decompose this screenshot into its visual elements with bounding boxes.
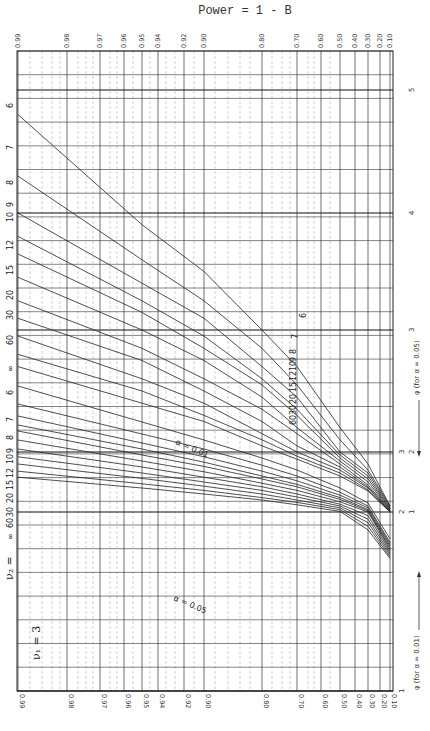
- nu2-label-alpha-005: 10: [6, 212, 15, 222]
- phi-005-tick: 3: [408, 328, 416, 332]
- bottom-tick-label: 0.20: [380, 694, 388, 708]
- nu2-label-alpha-001: 12: [6, 468, 15, 478]
- top-tick-label: 0.99: [14, 34, 22, 48]
- phi-005-arrow-head-icon: [417, 451, 421, 457]
- nu2-inline-label: 6: [299, 313, 308, 318]
- nu2-label-alpha-001: 9: [6, 448, 15, 453]
- nu2-inline-label: 30: [289, 405, 298, 415]
- phi-alpha-001-caption: φ (for α = 0.01): [413, 635, 421, 690]
- phi-005-tick: 2: [408, 450, 416, 454]
- nu2-label-alpha-005: 7: [6, 145, 15, 150]
- bottom-tick-label: 0.30: [368, 694, 376, 708]
- nu2-inline-label: 12: [289, 371, 298, 381]
- nu2-label-alpha-005: 8: [6, 180, 15, 185]
- top-tick-label: 0.94: [154, 34, 162, 48]
- top-tick-label: 0.50: [336, 34, 344, 48]
- phi-005-tick: 1: [408, 510, 416, 514]
- bottom-tick-label: 0.10: [390, 694, 398, 708]
- nu1-label: ν₁ = 3: [30, 626, 43, 660]
- nu2-label-alpha-001: ∞: [6, 533, 15, 540]
- bottom-tick-label: 0.90: [204, 694, 212, 708]
- nu2-inline-label: 60: [289, 415, 298, 425]
- nu2-label-alpha-001: 8: [6, 435, 15, 440]
- nu2-label-alpha-001: 60: [6, 518, 15, 528]
- top-tick-label: 0.92: [180, 34, 188, 48]
- alpha-001-label: α = 0.01: [174, 438, 210, 460]
- nu2-label-alpha-001: 30: [6, 507, 15, 517]
- phi-alpha-005-caption: φ (for α = 0.05): [413, 340, 421, 395]
- top-power-axis: 0.990.980.970.960.950.940.920.900.800.70…: [14, 34, 394, 48]
- bottom-tick-label: 0.96: [124, 694, 132, 708]
- top-tick-label: 0.20: [376, 34, 384, 48]
- top-tick-label: 0.10: [386, 34, 394, 48]
- nu2-inline-label: 8: [289, 349, 298, 354]
- top-tick-label: 0.60: [317, 34, 325, 48]
- top-tick-label: 0.70: [293, 34, 301, 48]
- bottom-tick-label: 0.50: [340, 694, 348, 708]
- phi-001-arrow-head-icon: [417, 571, 421, 577]
- nu2-label-alpha-001: 10: [6, 454, 15, 464]
- nu2-label-alpha-005: ∞: [6, 365, 15, 372]
- bottom-tick-label: 0.70: [297, 694, 305, 708]
- nu2-inline-label: 10: [289, 361, 298, 371]
- power-chart: 0.990.980.970.960.950.940.920.900.800.70…: [0, 0, 430, 731]
- bottom-tick-label: 0.92: [184, 694, 192, 708]
- alpha-005-label: α = 0.05: [172, 594, 208, 616]
- bottom-tick-label: 0.80: [262, 694, 270, 708]
- top-tick-label: 0.90: [200, 34, 208, 48]
- nu2-label-alpha-005: 6: [6, 103, 15, 108]
- top-tick-label: 0.97: [96, 34, 104, 48]
- bottom-tick-label: 0.97: [100, 694, 108, 708]
- top-tick-label: 0.95: [138, 34, 146, 48]
- nu2-label-alpha-005: 20: [6, 290, 15, 300]
- nu2-label-alpha-005: 9: [6, 202, 15, 207]
- nu2-inline-label: 20: [289, 394, 298, 404]
- nu2-label-alpha-001: 7: [6, 417, 15, 422]
- bottom-tick-label: 0.98: [67, 694, 75, 708]
- phi-005-tick: 5: [408, 88, 416, 92]
- top-tick-label: 0.40: [351, 34, 359, 48]
- nu2-inline-label: 15: [289, 382, 298, 392]
- nu2-prefix-label: ν₂ =: [3, 556, 16, 580]
- phi-001-tick: 2: [398, 510, 406, 514]
- top-tick-label: 0.98: [63, 34, 71, 48]
- nu2-label-alpha-005: 30: [6, 310, 15, 320]
- bottom-tick-label: 0.95: [142, 694, 150, 708]
- nu2-label-alpha-001: 6: [6, 390, 15, 395]
- phi-005-tick: 4: [408, 210, 416, 215]
- nu2-label-alpha-005: 12: [6, 240, 15, 250]
- bottom-power-axis: 0.990.980.970.960.950.940.920.900.800.70…: [18, 694, 398, 708]
- top-tick-label: 0.96: [120, 34, 128, 48]
- nu2-label-alpha-005: 15: [6, 265, 15, 275]
- top-tick-label: 0.30: [364, 34, 372, 48]
- bottom-tick-label: 0.99: [18, 694, 26, 708]
- bottom-tick-label: 0.60: [321, 694, 329, 708]
- nu2-label-alpha-001: 15: [6, 480, 15, 490]
- phi-001-tick: 3: [398, 450, 406, 454]
- bottom-tick-label: 0.94: [158, 694, 166, 708]
- bottom-tick-label: 0.40: [355, 694, 363, 708]
- nu2-label-alpha-005: 60: [6, 335, 15, 345]
- phi-001-tick: 1: [398, 689, 406, 693]
- nu2-label-alpha-001: 20: [6, 493, 15, 503]
- nu2-inline-label: 7: [291, 334, 300, 339]
- top-tick-label: 0.80: [258, 34, 266, 48]
